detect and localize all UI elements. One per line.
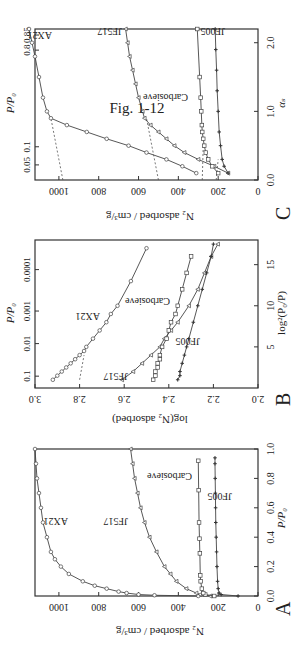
top-tick-label: 0.1 [22, 371, 32, 382]
data-point [60, 370, 64, 374]
y-tick-label: 800 [91, 602, 106, 613]
data-point [162, 565, 166, 569]
y-tick-label: 2.2 [207, 394, 220, 405]
data-point [124, 27, 128, 31]
data-point [156, 366, 160, 370]
extrapolation-line [202, 146, 203, 180]
data-point [198, 574, 202, 578]
data-point [129, 279, 133, 283]
data-point [199, 580, 203, 584]
data-point [59, 565, 63, 569]
data-point [51, 378, 55, 382]
y-tick-label: 2.6 [118, 394, 131, 405]
data-point [129, 447, 133, 451]
data-point [167, 329, 171, 333]
data-point [37, 75, 41, 79]
data-point [180, 288, 184, 292]
data-point [210, 164, 214, 168]
data-point [194, 171, 198, 175]
data-point [69, 362, 73, 366]
panel-a-xlabel: P/P₀ [275, 508, 287, 529]
data-point [151, 378, 155, 382]
data-point [98, 329, 102, 333]
data-point [105, 320, 109, 324]
data-point [134, 82, 138, 86]
x-tick-label: 0.8 [265, 472, 276, 485]
data-point [198, 537, 202, 541]
data-point [78, 353, 82, 357]
series-line [215, 29, 228, 173]
data-point [199, 110, 203, 114]
x-tick-label: 0.0 [265, 590, 276, 603]
data-point [176, 304, 180, 308]
data-point [160, 345, 164, 349]
data-point [196, 287, 200, 291]
panel-b-xticks: 51015 [254, 260, 276, 350]
data-point [84, 345, 88, 349]
x-tick-label: 0.6 [265, 502, 276, 515]
data-point [147, 535, 151, 539]
label-carbosieve: Carbosieve [146, 471, 192, 482]
data-point [165, 337, 169, 341]
y-tick-label: 2.0 [252, 394, 265, 405]
data-point [208, 594, 212, 598]
data-point [131, 462, 135, 466]
label-jf517-c: JF517 [98, 26, 122, 37]
panel-c-letter: C [272, 207, 294, 220]
data-point [93, 584, 97, 588]
panel-a-letter: A [272, 601, 294, 616]
data-point [39, 506, 43, 510]
data-point [143, 116, 147, 120]
extrapolation-line [51, 118, 63, 180]
data-point [53, 557, 57, 561]
data-point [198, 552, 202, 556]
top-tick-label: 0.05 [22, 157, 32, 173]
rotated-figure: A N₂ adsorbed / cm³/g P/P₀ 0200400600800… [0, 0, 296, 668]
data-point [216, 242, 220, 246]
data-point [181, 164, 185, 168]
x-tick-label: 0.2 [265, 560, 276, 573]
panel-c-yticks: 02004006008001000 [49, 176, 261, 197]
panel-c: C N₂ adsorbed / cm³/g αₛ P/P₀ 0200400600… [4, 26, 294, 223]
data-point [212, 594, 216, 598]
panel-c-xticks: 0.01.02.0 [254, 36, 276, 186]
data-point [145, 246, 149, 250]
x-tick-label: 1.0 [265, 443, 276, 456]
data-point [200, 130, 204, 134]
data-point [174, 312, 178, 316]
panel-a-ylabel: N₂ adsorbed / cm³/g [115, 626, 204, 638]
data-point [206, 158, 210, 162]
y-tick-label: 1000 [49, 186, 69, 197]
data-point [85, 130, 89, 134]
data-point [33, 55, 37, 59]
data-point [197, 488, 201, 492]
data-point [105, 587, 109, 591]
data-point [34, 462, 38, 466]
data-point [154, 550, 158, 554]
x-tick-label: 15 [265, 260, 276, 270]
data-point [139, 506, 143, 510]
y-tick-label: 3.0 [29, 394, 42, 405]
series-line [122, 244, 218, 380]
data-point [200, 587, 204, 591]
top-tick-label: 0.001 [22, 301, 32, 321]
panel-a-xticks: 0.00.20.40.60.81.0 [254, 443, 276, 603]
data-point [82, 349, 86, 353]
data-point [153, 593, 157, 597]
data-point [49, 116, 53, 120]
panel-c-xlabel: αₛ [275, 98, 287, 108]
y-tick-label: 2.8 [73, 394, 86, 405]
y-tick-label: 0 [256, 186, 261, 197]
label-jf005: JF005 [208, 491, 232, 502]
data-point [202, 144, 206, 148]
figure-canvas: A N₂ adsorbed / cm³/g P/P₀ 0200400600800… [0, 0, 296, 668]
panel-b-xlabel: log²(P₀/P) [275, 291, 288, 335]
data-point [117, 590, 121, 594]
data-point [143, 521, 147, 525]
y-tick-label: 0 [256, 602, 261, 613]
y-tick-label: 600 [131, 186, 146, 197]
data-point [133, 476, 137, 480]
data-point [33, 447, 37, 451]
data-point [37, 491, 41, 495]
y-tick-label: 1000 [49, 602, 69, 613]
